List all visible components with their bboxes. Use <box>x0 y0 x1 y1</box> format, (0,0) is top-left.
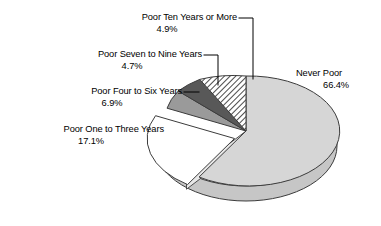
slice-label-four-to-six-name: Poor Four to Six Years <box>42 86 182 98</box>
slice-label-four-to-six: Poor Four to Six Years 6.9% <box>42 86 182 109</box>
slice-label-seven-to-nine-value: 4.7% <box>62 61 202 73</box>
slice-label-four-to-six-value: 6.9% <box>42 98 182 110</box>
slice-label-seven-to-nine: Poor Seven to Nine Years 4.7% <box>62 49 202 72</box>
slice-label-ten-or-more: Poor Ten Years or More 4.9% <box>97 12 237 35</box>
slice-label-ten-or-more-name: Poor Ten Years or More <box>97 12 237 24</box>
slice-label-never-poor-value: 66.4% <box>296 80 376 92</box>
slice-label-one-to-three-name: Poor One to Three Years <box>18 124 164 136</box>
slice-label-never-poor: Never Poor 66.4% <box>296 68 376 91</box>
slice-label-never-poor-name: Never Poor <box>296 68 376 80</box>
leader-line-ten-or-more <box>239 18 253 79</box>
slice-label-seven-to-nine-name: Poor Seven to Nine Years <box>62 49 202 61</box>
pie-chart-figure: Poor Ten Years or More 4.9% Poor Seven t… <box>0 0 381 226</box>
slice-label-ten-or-more-value: 4.9% <box>97 24 237 36</box>
slice-label-one-to-three: Poor One to Three Years 17.1% <box>18 124 164 147</box>
slice-label-one-to-three-value: 17.1% <box>18 136 164 148</box>
